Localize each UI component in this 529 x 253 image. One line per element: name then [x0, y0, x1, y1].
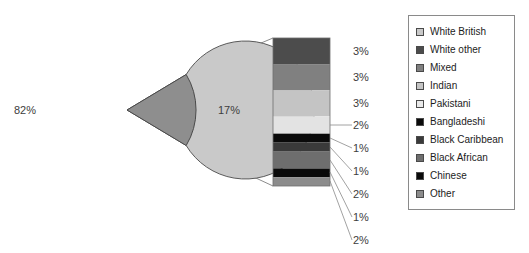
legend-swatch-mixed — [416, 64, 424, 72]
bar-segment-bangladeshi — [273, 134, 330, 143]
bar-label-other: 2% — [353, 234, 369, 246]
bar-segment-mixed — [273, 64, 330, 90]
legend-label-black-african: Black African — [430, 153, 488, 163]
bar-label-pakistani: 2% — [353, 119, 369, 131]
legend-swatch-pakistani — [416, 100, 424, 108]
legend-item-black-african[interactable]: Black African — [416, 149, 514, 167]
pie-label-82: 82% — [14, 104, 36, 116]
bar-label-black-african: 2% — [353, 188, 369, 200]
bar-segment-chinese — [273, 169, 330, 178]
bar-segment-black-african — [273, 151, 330, 168]
callout-black-caribbean — [330, 147, 352, 171]
bar-label-white-other: 3% — [353, 45, 369, 57]
callout-bangladeshi — [330, 138, 352, 148]
chart-legend: White British White other Mixed Indian P… — [408, 15, 515, 210]
legend-label-other: Other — [430, 189, 455, 199]
legend-item-black-caribbean[interactable]: Black Caribbean — [416, 131, 514, 149]
pie-slice-other-groups — [127, 75, 196, 146]
legend-swatch-black-caribbean — [416, 136, 424, 144]
bar-segment-pakistani — [273, 116, 330, 133]
legend-label-black-caribbean: Black Caribbean — [430, 135, 503, 145]
legend-swatch-other — [416, 190, 424, 198]
legend-swatch-chinese — [416, 172, 424, 180]
legend-item-mixed[interactable]: Mixed — [416, 59, 514, 77]
bar-label-mixed: 3% — [353, 71, 369, 83]
legend-item-chinese[interactable]: Chinese — [416, 167, 514, 185]
legend-label-white-british: White British — [430, 27, 486, 37]
legend-item-white-other[interactable]: White other — [416, 41, 514, 59]
legend-label-bangladeshi: Bangladeshi — [430, 117, 485, 127]
stacked-bar — [273, 38, 330, 186]
pie-label-17: 17% — [218, 104, 240, 116]
legend-swatch-black-african — [416, 154, 424, 162]
bar-label-black-caribbean: 1% — [353, 165, 369, 177]
legend-item-white-british[interactable]: White British — [416, 23, 514, 41]
legend-item-indian[interactable]: Indian — [416, 77, 514, 95]
chart-canvas: 82% 17% 3% 3% 3% 2% 1% — [0, 0, 529, 253]
legend-item-other[interactable]: Other — [416, 185, 514, 203]
bar-segment-indian — [273, 90, 330, 116]
legend-swatch-bangladeshi — [416, 118, 424, 126]
legend-item-bangladeshi[interactable]: Bangladeshi — [416, 113, 514, 131]
bar-label-bangladeshi: 1% — [353, 142, 369, 154]
legend-swatch-indian — [416, 82, 424, 90]
bar-segment-black-caribbean — [273, 142, 330, 151]
legend-swatch-white-british — [416, 28, 424, 36]
legend-label-chinese: Chinese — [430, 171, 467, 181]
legend-label-mixed: Mixed — [430, 63, 457, 73]
bar-label-indian: 3% — [353, 97, 369, 109]
bar-callout-lines — [330, 125, 352, 240]
legend-label-pakistani: Pakistani — [430, 99, 471, 109]
legend-label-indian: Indian — [430, 81, 457, 91]
legend-item-pakistani[interactable]: Pakistani — [416, 95, 514, 113]
bar-segment-other — [273, 177, 330, 186]
bar-segment-white-other — [273, 38, 330, 64]
legend-label-white-other: White other — [430, 45, 481, 55]
bar-label-chinese: 1% — [353, 211, 369, 223]
legend-swatch-white-other — [416, 46, 424, 54]
